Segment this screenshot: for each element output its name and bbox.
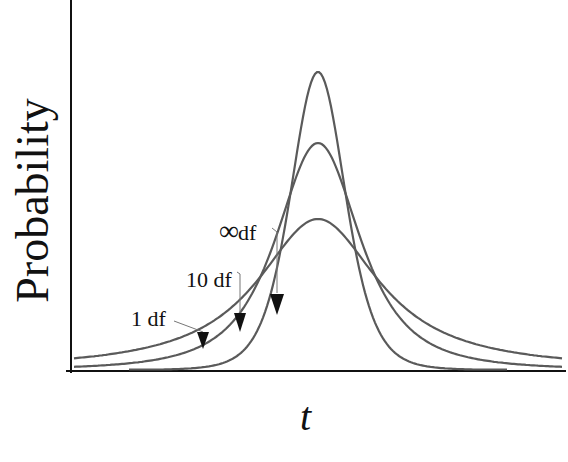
plot-area xyxy=(0,0,568,462)
annotation-arrow-10df xyxy=(234,272,246,332)
curve-10-df xyxy=(74,143,562,367)
x-axis-label: t xyxy=(300,393,311,440)
y-axis-label: Probability xyxy=(6,98,59,302)
annotation-10-df: 10 df xyxy=(186,267,232,293)
t-distribution-chart: Probability t 1 df 10 df ∞df xyxy=(0,0,568,462)
infinity-symbol: ∞ xyxy=(219,215,238,246)
curve-1-df xyxy=(74,219,562,358)
y-axis-label-container: Probability xyxy=(4,40,60,360)
annotation-inf-df-suffix: df xyxy=(238,220,256,245)
annotation-1-df: 1 df xyxy=(131,306,166,332)
annotation-arrow-1df xyxy=(174,321,209,349)
annotation-inf-df: ∞df xyxy=(219,215,256,247)
